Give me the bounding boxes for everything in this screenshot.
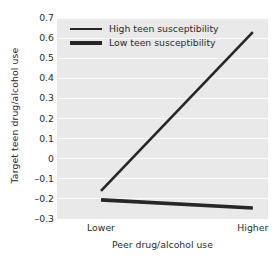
y-axis-tick-label: 0.2 xyxy=(18,114,54,123)
legend-swatch-icon xyxy=(70,41,102,45)
x-axis-tick-labels: LowerHigher xyxy=(0,223,280,237)
chart-figure: Target teen drug/alcohol use 0.70.60.50.… xyxy=(0,0,280,261)
legend-item[interactable]: Low teen susceptibility xyxy=(70,36,250,50)
x-axis-title: Peer drug/alcohol use xyxy=(57,240,268,249)
y-axis-tick-label: –0.1 xyxy=(18,174,54,183)
y-axis-tick-label: 0.1 xyxy=(18,134,54,143)
y-axis-tick-label: 0.5 xyxy=(18,54,54,63)
series-line xyxy=(101,32,253,191)
legend-swatch-icon xyxy=(70,28,102,31)
y-axis-tick-label: 0.4 xyxy=(18,74,54,83)
y-axis-tick-labels: 0.70.60.50.40.30.20.10–0.1–0.2–0.3 xyxy=(18,0,54,261)
y-axis-tick-label: 0.3 xyxy=(18,94,54,103)
legend-item[interactable]: High teen susceptibility xyxy=(70,22,250,36)
y-axis-tick-label: 0 xyxy=(18,154,54,163)
legend-item-label: High teen susceptibility xyxy=(109,24,219,33)
x-axis-tick-label: Lower xyxy=(87,223,115,232)
y-axis-tick-label: –0.2 xyxy=(18,194,54,203)
x-axis-tick-label: Higher xyxy=(237,223,268,232)
y-axis-tick-label: 0.7 xyxy=(18,13,54,22)
y-axis-tick-label: 0.6 xyxy=(18,33,54,42)
chart-legend: High teen susceptibilityLow teen suscept… xyxy=(70,22,250,50)
legend-item-label: Low teen susceptibility xyxy=(109,38,216,47)
series-line xyxy=(101,200,253,208)
